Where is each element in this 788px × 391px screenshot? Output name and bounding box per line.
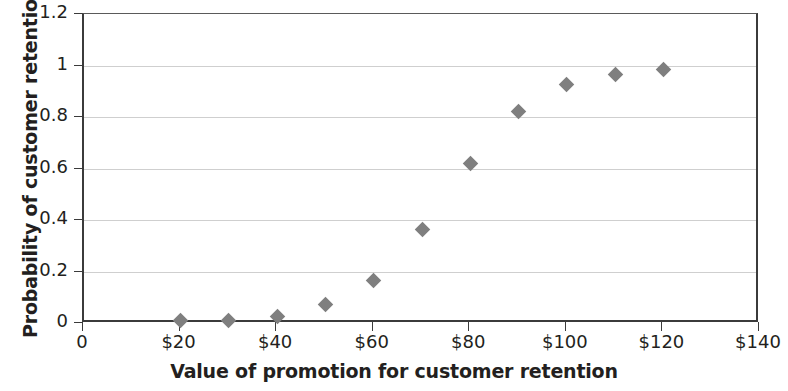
y-axis-tick-label: 1.2: [0, 1, 68, 22]
data-point: [173, 313, 189, 329]
chart-container: Probability of customer retention 00.20.…: [0, 0, 788, 391]
gridline-horizontal: [84, 272, 756, 273]
x-axis-title: Value of promotion for customer retentio…: [0, 360, 788, 382]
x-axis-tick-label: $100: [520, 331, 610, 352]
y-axis-tick-label: 0: [0, 310, 68, 331]
data-point: [607, 67, 623, 83]
plot-area: [82, 13, 758, 322]
gridline-horizontal: [84, 169, 756, 170]
gridline-horizontal: [84, 220, 756, 221]
x-axis-tick: [372, 322, 373, 331]
y-axis-tick-label: 1: [0, 53, 68, 74]
gridline-horizontal: [84, 117, 756, 118]
data-point: [656, 62, 672, 78]
x-axis-tick-label: $120: [616, 331, 706, 352]
x-axis-tick: [758, 322, 759, 331]
x-axis-tick: [468, 322, 469, 331]
data-point: [414, 221, 430, 237]
x-axis-tick-label: $20: [134, 331, 224, 352]
data-point: [559, 77, 575, 93]
x-axis-tick: [565, 322, 566, 331]
data-point: [269, 309, 285, 325]
y-axis-tick-label: 0.8: [0, 104, 68, 125]
x-axis-tick: [661, 322, 662, 331]
data-point: [318, 297, 334, 313]
y-axis-tick-label: 0.4: [0, 207, 68, 228]
x-axis-tick-label: 0: [37, 331, 127, 352]
x-axis-tick-label: $40: [230, 331, 320, 352]
x-axis-tick-label: $80: [423, 331, 513, 352]
data-point: [221, 313, 237, 329]
data-point: [366, 273, 382, 289]
y-axis-tick-label: 0.2: [0, 259, 68, 280]
x-axis-tick: [82, 322, 83, 331]
y-axis-tick-label: 0.6: [0, 156, 68, 177]
x-axis-tick-label: $60: [327, 331, 417, 352]
x-axis-tick-label: $140: [713, 331, 788, 352]
gridline-horizontal: [84, 66, 756, 67]
